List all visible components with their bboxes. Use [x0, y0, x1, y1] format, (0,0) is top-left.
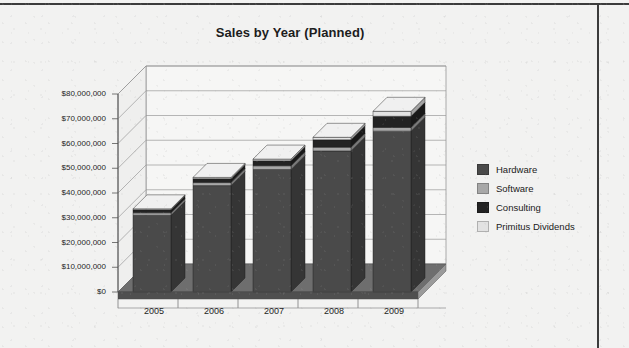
- x-axis-category-label: 2007: [247, 306, 301, 316]
- legend-item-label: Software: [496, 183, 534, 194]
- legend-item-label: Primitus Dividends: [496, 221, 575, 232]
- legend-swatch-icon: [477, 202, 489, 213]
- legend-item[interactable]: Hardware: [477, 160, 575, 178]
- page-border-right-rule: [597, 3, 599, 348]
- legend-item[interactable]: Consulting: [477, 198, 575, 216]
- legend-swatch-icon: [477, 183, 489, 194]
- legend-item[interactable]: Primitus Dividends: [477, 217, 575, 235]
- legend-item-label: Hardware: [496, 164, 537, 175]
- x-axis-category-label: 2008: [307, 306, 361, 316]
- chart-legend: HardwareSoftwareConsultingPrimitus Divid…: [477, 160, 575, 236]
- x-axis-category-label: 2009: [367, 306, 421, 316]
- legend-swatch-icon: [477, 221, 489, 232]
- x-axis-category-label: 2006: [187, 306, 241, 316]
- legend-item-label: Consulting: [496, 202, 541, 213]
- legend-item[interactable]: Software: [477, 179, 575, 197]
- x-axis-category-label: 2005: [127, 306, 181, 316]
- legend-swatch-icon: [477, 164, 489, 175]
- chart-page: Sales by Year (Planned) $0$10,000,000$20…: [0, 0, 629, 348]
- page-border-top-rule: [0, 3, 629, 5]
